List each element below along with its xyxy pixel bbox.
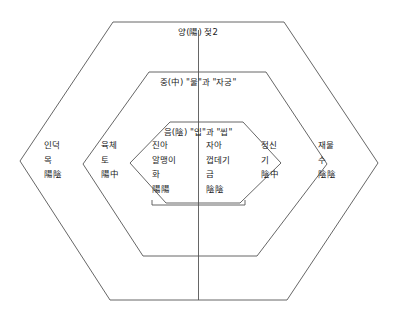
column-outer-left-line-1: 인덕 — [44, 138, 60, 153]
column-outer-right: 재물 수 陰陰 — [318, 138, 336, 182]
outer-band-title: 양(陽) 젖2 — [178, 26, 218, 39]
column-inner-left-line-2: 알맹이 — [152, 153, 176, 168]
column-inner-right-line-3: 금 — [206, 167, 214, 182]
column-middle-left-line-1: 육체 — [101, 138, 117, 153]
column-outer-left-line-3: 陽陰 — [44, 167, 62, 182]
column-inner-left-line-4: 陽陽 — [152, 182, 170, 197]
column-middle-left-line-3: 陽中 — [101, 167, 119, 182]
column-middle-right-line-3: 陰中 — [261, 167, 279, 182]
column-inner-right-line-1: 자아 — [206, 138, 222, 153]
hexagon-diagram: 양(陽) 젖2 중(中) "물"과 "자궁" 음(陰) "입"과 "씹" 인덕 … — [0, 0, 397, 319]
column-outer-right-line-2: 수 — [318, 153, 326, 168]
column-middle-left-line-2: 토 — [101, 153, 109, 168]
column-outer-right-line-3: 陰陰 — [318, 167, 336, 182]
column-middle-right: 정신 기 陰中 — [261, 138, 279, 182]
column-outer-right-line-1: 재물 — [318, 138, 334, 153]
column-middle-right-line-2: 기 — [261, 153, 269, 168]
middle-band-title: 중(中) "물"과 "자궁" — [160, 76, 237, 89]
column-inner-left-line-3: 화 — [152, 167, 160, 182]
middle-hexagon-shape — [83, 72, 327, 256]
column-middle-left: 육체 토 陽中 — [101, 138, 119, 182]
column-inner-left-line-1: 진아 — [152, 138, 168, 153]
column-outer-left: 인덕 목 陽陰 — [44, 138, 62, 182]
column-inner-right-line-4: 陰陰 — [206, 182, 224, 197]
column-inner-right-line-2: 껍데기 — [206, 153, 230, 168]
column-inner-left: 진아 알맹이 화 陽陽 — [152, 138, 176, 196]
column-middle-right-line-1: 정신 — [261, 138, 277, 153]
column-outer-left-line-2: 목 — [44, 153, 52, 168]
column-inner-right: 자아 껍데기 금 陰陰 — [206, 138, 230, 196]
